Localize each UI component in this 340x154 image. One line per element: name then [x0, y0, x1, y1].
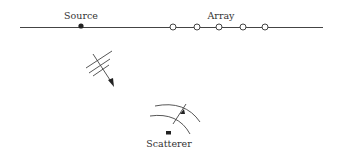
scattered-wavefronts [150, 105, 200, 134]
incident-arrow [93, 54, 114, 87]
diagram-canvas [0, 0, 340, 154]
array-element [262, 24, 268, 30]
source-label: Source [64, 10, 98, 21]
array-element [194, 24, 200, 30]
source-marker [78, 23, 83, 28]
scatterer-marker [166, 131, 171, 135]
array-element [170, 24, 176, 30]
array-element [216, 24, 222, 30]
array-element [240, 24, 246, 30]
array-label: Array [208, 10, 235, 21]
scattered-arrow [173, 104, 186, 124]
scatterer-label: Scatterer [146, 138, 191, 149]
